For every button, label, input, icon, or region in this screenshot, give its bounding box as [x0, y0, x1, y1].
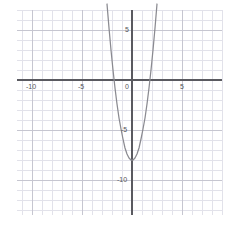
y-tick-label-5: 5 [125, 26, 129, 34]
x-tick-label-0: 0 [125, 83, 129, 91]
major-gridlines [17, 10, 222, 215]
coordinate-plane [0, 0, 237, 225]
x-tick-label-5: 5 [180, 83, 184, 91]
y-tick-label-neg5: -5 [121, 126, 127, 134]
minor-gridlines [17, 10, 222, 215]
graph-figure: -10-5055-5-10 [0, 0, 237, 225]
x-tick-label-neg10: -10 [26, 83, 36, 91]
axes-lines [17, 10, 222, 215]
y-tick-label-neg10: -10 [117, 176, 127, 184]
x-tick-label-neg5: -5 [78, 83, 84, 91]
